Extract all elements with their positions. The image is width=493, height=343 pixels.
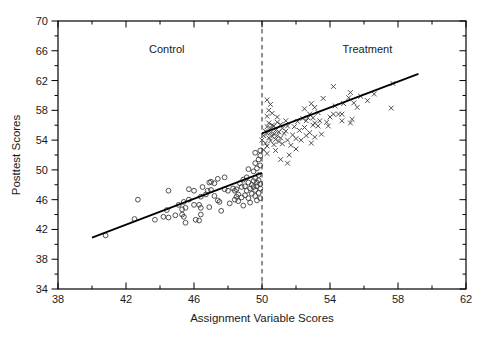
treatment-point xyxy=(319,132,324,137)
treatment-point xyxy=(294,136,299,141)
axis-ticks xyxy=(52,21,467,289)
treatment-point xyxy=(265,114,270,119)
control-point xyxy=(253,150,258,155)
treatment-point xyxy=(355,105,360,110)
treatment-point xyxy=(389,106,394,111)
y-tick-label: 70 xyxy=(36,15,48,27)
treatment-point xyxy=(272,142,277,147)
y-tick-label: 66 xyxy=(36,45,48,57)
control-point xyxy=(212,194,217,199)
control-fit-line xyxy=(92,173,262,238)
treatment-point xyxy=(302,106,307,111)
x-tick-label: 38 xyxy=(52,293,64,305)
treatment-point xyxy=(340,112,345,117)
treatment-point xyxy=(312,105,317,110)
treatment-point xyxy=(294,147,299,152)
control-point xyxy=(219,208,224,213)
control-point xyxy=(192,202,197,207)
treatment-point xyxy=(273,148,278,153)
treatment-point xyxy=(312,135,317,140)
x-tick-label: 58 xyxy=(392,293,404,305)
treatment-point xyxy=(331,112,336,117)
treatment-point xyxy=(285,161,290,166)
y-tick-label: 62 xyxy=(36,75,48,87)
control-point xyxy=(166,215,171,220)
y-tick-label: 46 xyxy=(36,194,48,206)
control-point xyxy=(198,212,203,217)
x-tick-label: 62 xyxy=(460,293,472,305)
treatment-point xyxy=(331,84,336,89)
control-point xyxy=(215,176,220,181)
treatment-point xyxy=(348,90,353,95)
treatment-point xyxy=(297,128,302,133)
y-tick-label: 42 xyxy=(36,223,48,235)
treatment-fit-line xyxy=(262,74,418,134)
x-tick-label: 54 xyxy=(324,293,336,305)
treatment-point xyxy=(292,124,297,129)
treatment-point xyxy=(289,143,294,148)
control-point xyxy=(153,217,158,222)
treatment-point xyxy=(311,115,316,120)
treatment-point xyxy=(316,124,321,129)
treatment-point xyxy=(317,118,322,123)
control-point xyxy=(222,175,227,180)
treatment-point xyxy=(340,118,345,123)
treatment-point xyxy=(299,138,304,143)
treatment-point xyxy=(307,130,312,135)
tick-labels: 3842465054586234384246505458626670 xyxy=(36,15,472,305)
treatment-point xyxy=(321,96,326,101)
y-tick-label: 38 xyxy=(36,253,48,265)
treatment-point xyxy=(268,102,273,107)
x-tick-label: 50 xyxy=(256,293,268,305)
control-point xyxy=(187,187,192,192)
treatment-point xyxy=(365,98,370,103)
x-tick-label: 42 xyxy=(120,293,132,305)
control-point xyxy=(173,213,178,218)
control-point xyxy=(183,220,188,225)
control-point xyxy=(248,200,253,205)
treatment-point xyxy=(351,101,356,106)
control-point xyxy=(136,197,141,202)
control-point xyxy=(227,201,232,206)
treatment-point xyxy=(270,111,275,116)
treatment-point xyxy=(302,125,307,130)
control-point xyxy=(207,205,212,210)
control-point xyxy=(166,188,171,193)
treatment-point xyxy=(283,129,288,134)
treatment-points-group xyxy=(260,81,396,166)
regression-discontinuity-figure: 3842465054586234384246505458626670 Assig… xyxy=(0,0,493,343)
control-point xyxy=(246,167,251,172)
control-point xyxy=(161,214,166,219)
y-tick-label: 34 xyxy=(36,283,48,295)
treatment-point xyxy=(265,98,270,103)
treatment-point xyxy=(285,138,290,143)
control-point xyxy=(192,188,197,193)
treatment-point xyxy=(287,153,292,158)
control-point xyxy=(197,218,202,223)
treatment-point xyxy=(278,157,283,162)
y-tick-label: 54 xyxy=(36,134,48,146)
treatment-point xyxy=(275,115,280,120)
treatment-point xyxy=(283,118,288,123)
x-tick-label: 46 xyxy=(188,293,200,305)
y-tick-label: 58 xyxy=(36,104,48,116)
control-point xyxy=(200,185,205,190)
y-tick-label: 50 xyxy=(36,164,48,176)
control-point xyxy=(241,203,246,208)
treatment-point xyxy=(309,141,314,146)
treatment-point xyxy=(372,92,377,97)
treatment-point xyxy=(265,151,270,156)
scatter-plot-svg: 3842465054586234384246505458626670 xyxy=(0,0,493,343)
